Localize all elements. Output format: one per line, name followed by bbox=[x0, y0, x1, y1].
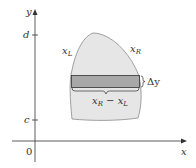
left-curve-label: xL bbox=[62, 45, 73, 58]
diagram-canvas: y x 0 d c xL xR Δy xR − xL bbox=[0, 0, 196, 168]
origin-label: 0 bbox=[26, 146, 32, 157]
y-axis-arrow-icon bbox=[33, 9, 38, 15]
height-brace bbox=[141, 76, 145, 87]
tick-label-c: c bbox=[24, 114, 30, 125]
x-axis-label: x bbox=[181, 146, 187, 157]
y-axis-label: y bbox=[25, 6, 32, 17]
tick-label-d: d bbox=[23, 29, 29, 40]
right-curve-label: xR bbox=[130, 43, 142, 56]
x-axis-arrow-icon bbox=[181, 139, 187, 144]
horizontal-strip bbox=[72, 76, 140, 88]
delta-y-label: Δy bbox=[147, 76, 160, 87]
